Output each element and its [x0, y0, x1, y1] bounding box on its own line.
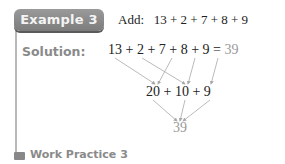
arrow-9-to-39 — [183, 100, 210, 121]
arrow-20-to-39 — [153, 100, 177, 121]
arrow-8-to-10 — [188, 58, 195, 84]
work-practice-label: Work Practice 3 — [30, 148, 128, 161]
arrow-10-to-39 — [180, 100, 185, 121]
arrow-7-to-20 — [158, 58, 172, 84]
grouping-arrows — [0, 0, 285, 164]
arrow-9-to-9 — [211, 58, 218, 84]
work-practice-bullet-icon — [14, 152, 25, 160]
